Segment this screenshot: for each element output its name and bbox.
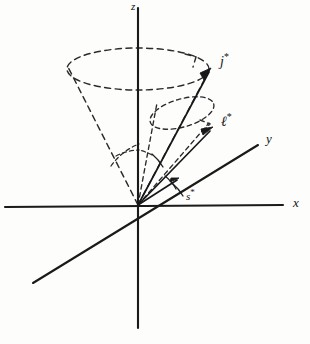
axis-label-x: x [293,196,299,209]
arc-z-to-cone [116,150,139,156]
vector-diagram-canvas [0,0,310,344]
axis-line-x [5,205,283,207]
vectors-group [138,68,213,205]
arc-j-to-l [139,150,152,155]
vector-label-j-star-superscript: * [224,51,229,62]
large-cone-left-slant [68,66,139,205]
axes-group [5,8,283,328]
axis-label-z: z [131,1,135,12]
arc-z-to-cone-outer [111,144,139,166]
axis-label-y: y [266,132,272,145]
vector-l-star-shaft [138,131,210,205]
vector-label-j-star: j* [220,52,229,69]
figure-root: z x y j* ℓ* s* [0,0,310,344]
small-cone-right-slant [138,123,209,205]
small-cone-left-slant [138,103,157,205]
vector-label-s-star-superscript: * [190,187,195,197]
vector-label-l-star-superscript: * [227,111,232,122]
vector-label-l-star: ℓ* [221,112,232,129]
vector-label-s-star: s* [186,188,195,202]
